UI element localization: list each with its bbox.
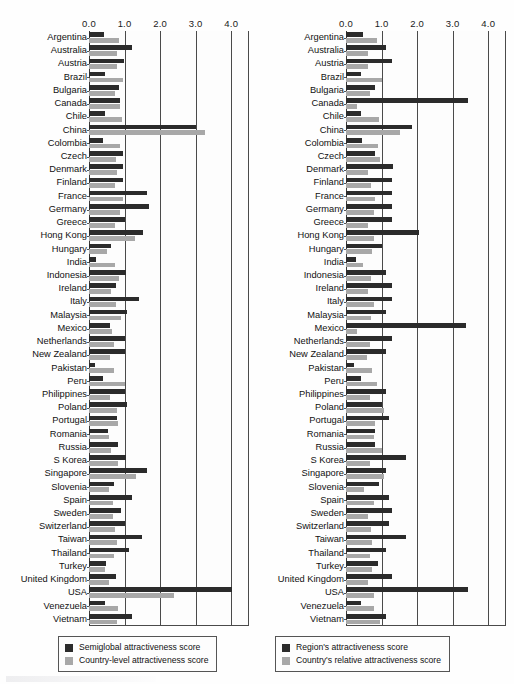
category-label: India (257, 258, 344, 267)
category-label: India (0, 258, 87, 267)
axis-tick-label: 2.0 (153, 18, 167, 29)
category-label: Canada (257, 99, 344, 108)
category-label: Netherlands (257, 337, 344, 346)
bar-country-s-relative-attractiveness-score (346, 91, 370, 96)
axis-tick-label: 0.0 (339, 18, 353, 29)
category-label: Russia (0, 443, 87, 452)
bar-region-s-attractiveness-score (346, 59, 392, 64)
category-label: Italy (257, 297, 344, 306)
bar-country-level-attractiveness-score (89, 183, 115, 188)
bar-country-level-attractiveness-score (89, 144, 120, 149)
bar-semiglobal-attractiveness-score (89, 548, 129, 553)
category-label: United Kingdom (0, 575, 87, 584)
bar-region-s-attractiveness-score (346, 111, 361, 116)
bar-region-s-attractiveness-score (346, 587, 468, 592)
category-label: New Zealand (0, 350, 87, 359)
category-label: Malaysia (257, 311, 344, 320)
bar-country-level-attractiveness-score (89, 249, 107, 254)
bar-region-s-attractiveness-score (346, 468, 386, 473)
bar-region-s-attractiveness-score (346, 270, 386, 275)
bar-region-s-attractiveness-score (346, 72, 361, 77)
category-label: S Korea (0, 456, 87, 465)
bar-semiglobal-attractiveness-score (89, 217, 125, 222)
axis-baseline (89, 625, 249, 626)
gridline (231, 31, 232, 626)
bar-country-level-attractiveness-score (89, 540, 117, 545)
bar-country-level-attractiveness-score (89, 316, 121, 321)
category-label: Czech (0, 152, 87, 161)
bar-country-s-relative-attractiveness-score (346, 540, 372, 545)
category-label: Greece (257, 218, 344, 227)
bar-region-s-attractiveness-score (346, 257, 356, 262)
bar-semiglobal-attractiveness-score (89, 191, 147, 196)
bar-country-level-attractiveness-score (89, 236, 135, 241)
axis-tick-label: 4.0 (481, 18, 495, 29)
bar-region-s-attractiveness-score (346, 164, 393, 169)
bar-country-s-relative-attractiveness-score (346, 368, 372, 373)
category-label: Ireland (0, 284, 87, 293)
bar-country-s-relative-attractiveness-score (346, 117, 379, 122)
category-label: Ireland (257, 284, 344, 293)
category-label: China (257, 126, 344, 135)
bar-region-s-attractiveness-score (346, 45, 386, 50)
bar-region-s-attractiveness-score (346, 151, 375, 156)
gridline (417, 31, 418, 626)
bar-country-level-attractiveness-score (89, 421, 118, 426)
bar-country-level-attractiveness-score (89, 620, 117, 625)
bar-semiglobal-attractiveness-score (89, 323, 110, 328)
bar-semiglobal-attractiveness-score (89, 85, 119, 90)
legend-label-country-level: Country-level attractiveness score (79, 656, 208, 665)
bar-region-s-attractiveness-score (346, 125, 412, 130)
category-label: Peru (257, 377, 344, 386)
bar-country-s-relative-attractiveness-score (346, 170, 368, 175)
category-label: Colombia (257, 139, 344, 148)
bar-region-s-attractiveness-score (346, 429, 375, 434)
bar-region-s-attractiveness-score (346, 614, 386, 619)
bar-country-level-attractiveness-score (89, 606, 118, 611)
legend-item: Semiglobal attractiveness score (65, 641, 208, 654)
bar-country-level-attractiveness-score (89, 263, 115, 268)
bar-region-s-attractiveness-score (346, 297, 392, 302)
left-category-labels: ArgentinaAustraliaAustriaBrazilBulgariaC… (0, 31, 87, 626)
category-label: Switzerland (257, 522, 344, 531)
bar-country-level-attractiveness-score (89, 501, 113, 506)
category-label: Singapore (0, 469, 87, 478)
bar-semiglobal-attractiveness-score (89, 178, 123, 183)
bar-country-s-relative-attractiveness-score (346, 554, 370, 559)
bar-country-level-attractiveness-score (89, 408, 117, 413)
bar-country-level-attractiveness-score (89, 117, 122, 122)
bar-country-level-attractiveness-score (89, 382, 125, 387)
category-label: USA (257, 588, 344, 597)
category-label: Mexico (257, 324, 344, 333)
bar-semiglobal-attractiveness-score (89, 601, 105, 606)
bar-country-level-attractiveness-score (89, 289, 111, 294)
category-label: Czech (257, 152, 344, 161)
left-chart-panel: 0.01.02.03.04.0 ArgentinaAustraliaAustri… (0, 0, 257, 684)
legend-item: Country's relative attractiveness score (282, 654, 441, 667)
bar-country-level-attractiveness-score (89, 64, 117, 69)
bar-country-s-relative-attractiveness-score (346, 501, 374, 506)
bar-region-s-attractiveness-score (346, 402, 382, 407)
category-label: Finland (0, 178, 87, 187)
bar-semiglobal-attractiveness-score (89, 574, 116, 579)
legend-swatch-semiglobal-icon (65, 644, 73, 652)
category-label: Denmark (0, 165, 87, 174)
axis-tick-label: 1.0 (118, 18, 132, 29)
legend-swatch-region-icon (282, 644, 290, 652)
bar-region-s-attractiveness-score (346, 204, 392, 209)
category-label: Netherlands (0, 337, 87, 346)
legend-label-country-relative: Country's relative attractiveness score (296, 656, 441, 665)
bar-country-level-attractiveness-score (89, 355, 110, 360)
bar-semiglobal-attractiveness-score (89, 495, 132, 500)
category-label: Russia (257, 443, 344, 452)
bar-country-s-relative-attractiveness-score (346, 421, 375, 426)
left-legend: Semiglobal attractiveness score Country-… (58, 636, 217, 672)
bar-country-s-relative-attractiveness-score (346, 302, 374, 307)
bar-country-s-relative-attractiveness-score (346, 223, 368, 228)
bar-country-s-relative-attractiveness-score (346, 144, 378, 149)
category-label: Thailand (0, 549, 87, 558)
bar-semiglobal-attractiveness-score (89, 72, 105, 77)
category-label: China (0, 126, 87, 135)
axis-tick-label: 2.0 (410, 18, 424, 29)
bar-semiglobal-attractiveness-score (89, 111, 105, 116)
